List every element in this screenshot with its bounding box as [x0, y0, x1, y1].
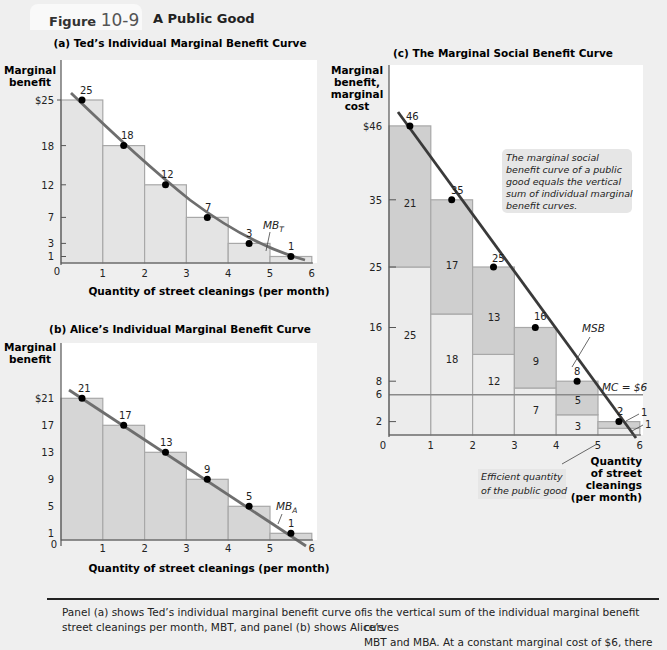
svg-text:35: 35: [369, 195, 382, 206]
svg-text:cleanings: cleanings: [586, 479, 642, 491]
svg-text:$46: $46: [363, 121, 382, 132]
svg-text:6: 6: [309, 543, 315, 554]
panel-c-title: (c) The Marginal Social Benefit Curve: [393, 47, 613, 59]
svg-text:9: 9: [48, 474, 54, 485]
svg-text:2: 2: [141, 268, 147, 279]
svg-text:25: 25: [369, 262, 382, 273]
svg-text:17: 17: [446, 260, 459, 271]
svg-text:cost: cost: [345, 100, 370, 112]
svg-text:13: 13: [41, 447, 54, 458]
svg-text:5: 5: [267, 543, 273, 554]
panel-c-msb-label: MSB: [582, 322, 605, 334]
svg-text:(per month): (per month): [571, 491, 642, 503]
svg-text:1: 1: [48, 528, 54, 539]
svg-text:benefit curves.: benefit curves.: [506, 200, 577, 211]
svg-text:1: 1: [641, 407, 647, 418]
svg-text:1: 1: [288, 518, 294, 529]
svg-text:5: 5: [267, 268, 273, 279]
svg-text:2: 2: [141, 543, 147, 554]
svg-text:benefit,: benefit,: [334, 76, 380, 88]
svg-text:7: 7: [533, 405, 539, 416]
caption-rule: [47, 598, 659, 600]
svg-text:18: 18: [121, 130, 134, 141]
panel-b-y-ticks: $2117 139 510: [35, 393, 57, 550]
svg-text:25: 25: [80, 85, 93, 96]
panel-b-ylabel-2: benefit: [9, 353, 51, 365]
svg-text:5: 5: [48, 501, 54, 512]
svg-text:6: 6: [376, 389, 382, 400]
panel-c: (c) The Marginal Social Benefit Curve 21…: [331, 47, 652, 503]
svg-text:$21: $21: [35, 393, 54, 404]
panel-a-xlabel: Quantity of street cleanings (per month): [88, 285, 329, 297]
panel-a: (a) Ted’s Individual Marginal Benefit Cu…: [4, 37, 330, 297]
svg-text:$25: $25: [35, 95, 54, 106]
svg-text:Marginal: Marginal: [331, 64, 383, 76]
panel-a-y-ticks: $2518 127 31: [35, 95, 54, 262]
svg-text:7: 7: [48, 212, 54, 223]
panel-c-xlabel: Quantity of street cleanings (per month): [571, 455, 642, 503]
svg-text:4: 4: [225, 543, 231, 554]
panel-b-ylabel-1: Marginal: [4, 341, 56, 353]
svg-text:1: 1: [100, 543, 106, 554]
svg-text:1: 1: [428, 440, 434, 451]
svg-text:21: 21: [78, 383, 91, 394]
svg-text:12: 12: [488, 376, 501, 387]
svg-text:3: 3: [575, 421, 581, 432]
panel-b-title: (b) Alice’s Individual Marginal Benefit …: [49, 323, 311, 335]
svg-text:1: 1: [48, 251, 54, 262]
caption-left: Panel (a) shows Ted’s individual margina…: [62, 605, 384, 635]
svg-text:benefit curve of a public: benefit curve of a public: [506, 164, 623, 175]
svg-text:12: 12: [41, 180, 54, 191]
svg-text:7: 7: [205, 202, 211, 213]
svg-text:good equals the vertical: good equals the vertical: [506, 176, 621, 187]
svg-text:4: 4: [225, 268, 231, 279]
svg-text:2: 2: [376, 416, 382, 427]
svg-text:18: 18: [41, 141, 54, 152]
svg-text:3: 3: [511, 440, 517, 451]
svg-text:13: 13: [488, 312, 501, 323]
svg-text:25: 25: [404, 330, 417, 341]
svg-text:4: 4: [553, 440, 559, 451]
svg-text:5: 5: [575, 395, 581, 406]
svg-text:1: 1: [100, 268, 106, 279]
svg-text:3: 3: [183, 268, 189, 279]
svg-text:3: 3: [48, 238, 54, 249]
panel-c-x-ticks: 012 3456: [380, 440, 643, 451]
panel-a-title: (a) Ted’s Individual Marginal Benefit Cu…: [53, 37, 306, 49]
panel-a-x-ticks: 012 3456: [54, 266, 315, 279]
svg-text:12: 12: [161, 169, 174, 180]
svg-text:Quantity: Quantity: [591, 455, 643, 467]
panel-a-ylabel-1: Marginal: [4, 64, 56, 76]
svg-text:0: 0: [51, 539, 57, 550]
svg-text:of the public good: of the public good: [481, 485, 568, 496]
svg-text:marginal: marginal: [331, 88, 383, 100]
svg-text:2: 2: [617, 406, 623, 417]
svg-text:17: 17: [41, 420, 54, 431]
svg-text:9: 9: [204, 464, 210, 475]
svg-text:of street: of street: [591, 467, 642, 479]
svg-text:sum of individual marginal: sum of individual marginal: [506, 188, 633, 199]
caption-right: is the vertical sum of the individual ma…: [364, 605, 667, 650]
svg-text:0: 0: [380, 440, 386, 451]
svg-text:6: 6: [309, 268, 315, 279]
svg-text:13: 13: [160, 437, 173, 448]
panel-b-xlabel: Quantity of street cleanings (per month): [88, 562, 329, 574]
svg-text:16: 16: [534, 311, 547, 322]
svg-text:3: 3: [246, 228, 252, 239]
svg-text:Efficient quantity: Efficient quantity: [481, 471, 563, 482]
svg-text:The marginal social: The marginal social: [506, 152, 599, 163]
svg-text:6: 6: [637, 440, 643, 451]
svg-text:9: 9: [533, 356, 539, 367]
panel-a-ylabel-2: benefit: [9, 76, 51, 88]
svg-text:21: 21: [404, 198, 417, 209]
panel-b-x-ticks: 12 3456: [100, 543, 315, 554]
svg-text:3: 3: [183, 543, 189, 554]
svg-text:18: 18: [446, 354, 459, 365]
panel-b: (b) Alice’s Individual Marginal Benefit …: [4, 323, 330, 574]
svg-text:2: 2: [469, 440, 475, 451]
svg-text:0: 0: [54, 266, 60, 277]
svg-text:1: 1: [645, 419, 651, 430]
svg-text:5: 5: [246, 491, 252, 502]
svg-text:5: 5: [595, 440, 601, 451]
